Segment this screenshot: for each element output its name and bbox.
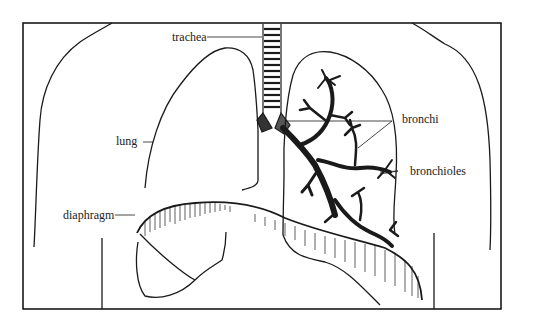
left-lung [136, 48, 258, 297]
bronchioles-label: bronchioles [410, 165, 466, 177]
trachea [257, 24, 290, 134]
bronchi-leader-2 [358, 121, 392, 148]
diaphragm [137, 202, 422, 300]
diaphragm-label: diaphragm [63, 209, 114, 221]
bronchial-tree [283, 70, 398, 246]
right-lung [283, 52, 397, 305]
respiratory-diagram [0, 0, 551, 325]
trachea-label: trachea [172, 31, 207, 43]
bronchi-label: bronchi [402, 113, 439, 125]
lung-label: lung [116, 135, 137, 147]
